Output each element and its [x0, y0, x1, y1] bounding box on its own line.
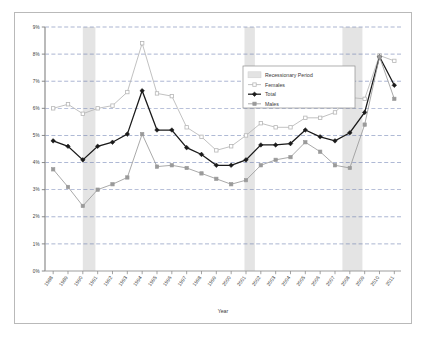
data-point-marker — [318, 116, 321, 119]
chart-legend: Recessionary PeriodFemalesTotalMales — [243, 66, 355, 108]
y-axis-tick-labels: 0%1%2%3%4%5%6%7%8%9% — [33, 25, 40, 274]
x-tick-label-2002: 2002 — [250, 274, 261, 287]
data-point-marker — [96, 188, 99, 191]
legend-swatch-recession — [248, 72, 261, 78]
data-point-marker — [378, 55, 381, 58]
data-point-marker — [111, 104, 114, 107]
x-tick-label-2005: 2005 — [295, 274, 306, 287]
data-point-marker — [392, 83, 397, 88]
data-point-marker — [318, 150, 321, 153]
line-chart-svg: 0%1%2%3%4%5%6%7%8%9% 1988198919901991199… — [15, 13, 411, 323]
x-tick-label-2006: 2006 — [310, 274, 321, 287]
x-tick-label-1998: 1998 — [191, 274, 202, 287]
y-tick-label: 6% — [33, 106, 40, 111]
data-point-marker — [363, 97, 366, 100]
recession-band-3 — [342, 27, 362, 271]
x-axis-tick-labels: 1988198919901991199219931994199519961997… — [43, 274, 396, 287]
data-point-marker — [333, 111, 336, 114]
data-point-marker — [393, 97, 396, 100]
data-point-marker — [289, 126, 292, 129]
data-point-marker — [244, 134, 247, 137]
data-point-marker — [215, 149, 218, 152]
data-point-marker — [155, 128, 160, 133]
data-point-marker — [81, 204, 84, 207]
y-tick-label: 4% — [33, 160, 40, 165]
chart-figure-frame: 0%1%2%3%4%5%6%7%8%9% 1988198919901991199… — [14, 12, 412, 324]
data-point-marker — [110, 140, 115, 145]
data-point-marker — [273, 143, 278, 148]
data-point-marker — [200, 172, 203, 175]
x-tick-label-2011: 2011 — [384, 274, 395, 286]
data-point-marker — [155, 165, 158, 168]
data-point-marker — [126, 90, 129, 93]
data-point-marker — [66, 185, 69, 188]
data-point-marker — [140, 88, 145, 93]
y-tick-label: 0% — [33, 269, 40, 274]
legend-label-total: Total — [265, 91, 276, 97]
data-point-marker — [111, 183, 114, 186]
x-tick-label-1995: 1995 — [147, 274, 158, 287]
x-tick-label-2009: 2009 — [354, 274, 365, 287]
data-point-marker — [51, 107, 54, 110]
x-tick-label-2010: 2010 — [369, 274, 380, 287]
y-tick-label: 8% — [33, 52, 40, 57]
data-point-marker — [96, 107, 99, 110]
data-point-marker — [215, 177, 218, 180]
data-point-marker — [140, 132, 143, 135]
x-tick-label-1994: 1994 — [132, 274, 143, 287]
x-tick-label-1988: 1988 — [43, 274, 54, 287]
legend-label-females: Females — [265, 82, 285, 88]
data-point-marker — [304, 141, 307, 144]
data-point-marker — [66, 103, 69, 106]
data-point-marker — [333, 139, 338, 144]
x-tick-label-1997: 1997 — [176, 274, 187, 287]
x-tick-label-1989: 1989 — [58, 274, 69, 287]
recession-band-1 — [83, 27, 96, 271]
data-point-marker — [229, 145, 232, 148]
data-point-marker — [348, 166, 351, 169]
legend-label-males: Males — [265, 101, 279, 107]
x-tick-label-2008: 2008 — [339, 274, 350, 287]
y-tick-label: 1% — [33, 242, 40, 247]
y-tick-label: 7% — [33, 79, 40, 84]
data-point-marker — [126, 176, 129, 179]
x-tick-label-2003: 2003 — [265, 274, 276, 287]
x-tick-label-1991: 1991 — [87, 274, 98, 287]
data-point-marker — [304, 116, 307, 119]
y-tick-label: 9% — [33, 25, 40, 30]
data-point-marker — [140, 42, 143, 45]
data-point-marker — [51, 168, 54, 171]
data-point-marker — [51, 139, 56, 144]
data-point-marker — [155, 92, 158, 95]
data-point-marker — [274, 126, 277, 129]
data-point-marker — [253, 102, 256, 105]
data-point-marker — [229, 183, 232, 186]
x-tick-label-2004: 2004 — [280, 274, 291, 287]
x-tick-label-2007: 2007 — [325, 274, 336, 287]
x-tick-label-1993: 1993 — [117, 274, 128, 287]
x-tick-label-1990: 1990 — [72, 274, 83, 287]
y-tick-label: 5% — [33, 133, 40, 138]
data-point-marker — [259, 164, 262, 167]
data-point-marker — [229, 163, 234, 168]
data-point-marker — [200, 135, 203, 138]
data-point-marker — [185, 126, 188, 129]
data-point-marker — [259, 122, 262, 125]
x-tick-label-2000: 2000 — [221, 274, 232, 287]
data-point-marker — [244, 178, 247, 181]
x-tick-label-1992: 1992 — [102, 274, 113, 287]
x-tick-label-2001: 2001 — [236, 274, 247, 287]
data-point-marker — [393, 59, 396, 62]
data-point-marker — [185, 166, 188, 169]
data-point-marker — [289, 155, 292, 158]
data-point-marker — [81, 112, 84, 115]
chart-plot-area: 0%1%2%3%4%5%6%7%8%9% 1988198919901991199… — [15, 13, 411, 323]
recession-band-2 — [245, 27, 255, 271]
data-point-marker — [363, 123, 366, 126]
data-point-marker — [170, 94, 173, 97]
data-point-marker — [274, 158, 277, 161]
data-point-marker — [253, 83, 256, 86]
x-tick-label-1996: 1996 — [161, 274, 172, 287]
x-axis-title: Year — [218, 308, 229, 314]
y-tick-label: 2% — [33, 214, 40, 219]
